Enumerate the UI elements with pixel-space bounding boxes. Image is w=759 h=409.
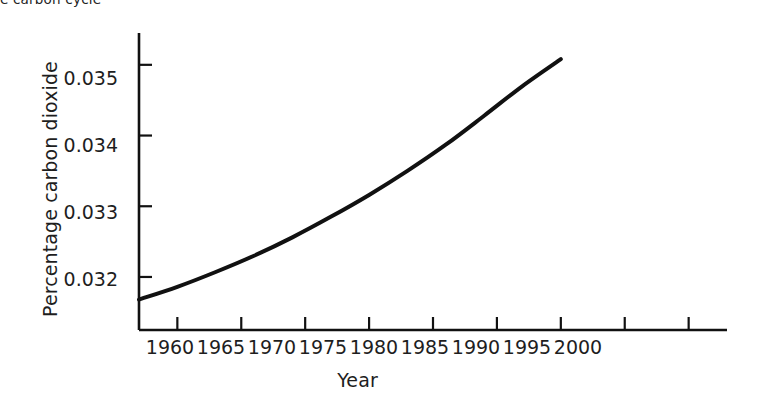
caption-fragment: e carbon cycle xyxy=(0,0,300,9)
x-axis-ticks xyxy=(177,317,688,330)
y-tick-label-0034: 0.034 xyxy=(38,134,118,156)
y-axis-ticks xyxy=(139,65,152,277)
y-tick-label-0035: 0.035 xyxy=(38,67,118,89)
y-tick-label-0033: 0.033 xyxy=(38,201,118,223)
x-axis-title-text: Year xyxy=(337,369,378,391)
chart-figure: e carbon cycle Percentage carbon dioxide… xyxy=(0,0,759,409)
x-tick-label-2000: 2000 xyxy=(548,336,608,358)
x-axis-title: Year xyxy=(0,369,759,391)
y-tick-label-0032: 0.032 xyxy=(38,268,118,290)
co2-line-series xyxy=(139,59,561,299)
